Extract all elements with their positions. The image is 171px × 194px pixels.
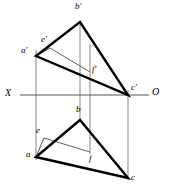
projection-drawing [0, 0, 171, 194]
triangle-a-prime-b-prime-c-prime [36, 22, 128, 95]
drawing-sheet: X O a′ b′ c′ e′ f′ a b c e f [0, 0, 171, 194]
point-label-e: e [36, 126, 40, 135]
segment-e-prime-f-prime [50, 48, 90, 72]
point-label-b-prime: b′ [75, 2, 81, 11]
point-label-a: a [26, 150, 31, 159]
point-label-c-prime: c′ [131, 83, 137, 92]
point-label-e-prime: e′ [41, 35, 47, 44]
point-label-f: f [89, 154, 92, 163]
triangle-a-b-c [36, 120, 128, 178]
point-label-f-prime: f′ [92, 65, 96, 74]
axis-label-x: X [5, 88, 11, 98]
point-label-a-prime: a′ [21, 46, 27, 55]
axis-label-o: O [152, 87, 159, 97]
frontal-projection-group [36, 22, 128, 95]
horizontal-projection-group [36, 120, 128, 178]
point-label-c: c [131, 173, 135, 182]
point-label-b: b [76, 105, 81, 114]
